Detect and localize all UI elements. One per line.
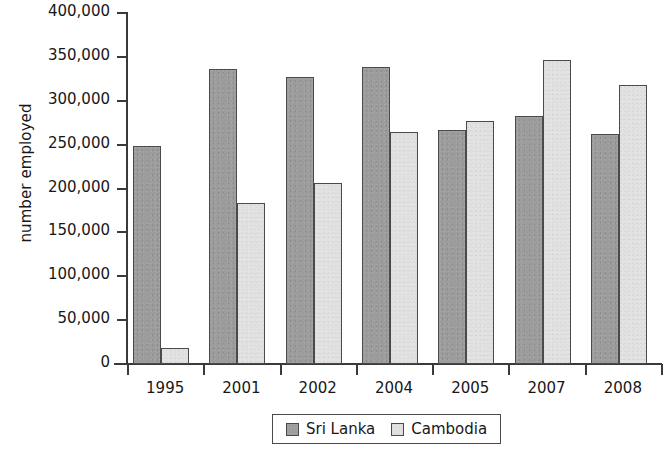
bar-sri-lanka <box>438 130 466 364</box>
x-axis-tick-mark <box>203 364 205 375</box>
y-axis-tick-label: 250,000 <box>48 134 110 152</box>
bar-sri-lanka <box>362 67 390 364</box>
y-axis-tick-mark <box>117 231 127 233</box>
y-axis-tick-mark <box>117 100 127 102</box>
bar-sri-lanka <box>209 69 237 364</box>
bar-cambodia <box>237 203 265 364</box>
legend-label-cambodia: Cambodia <box>411 420 487 438</box>
y-axis-tick-mark <box>117 319 127 321</box>
bar-chart: number employed 050,000100,000150,000200… <box>0 0 664 453</box>
bar-sri-lanka <box>286 77 314 364</box>
x-axis-tick-mark <box>280 364 282 375</box>
y-axis-tick-label: 100,000 <box>48 265 110 283</box>
x-axis-tick-label: 2005 <box>432 379 508 397</box>
bar-cambodia <box>161 348 189 364</box>
bar-group <box>133 13 189 364</box>
bar-cambodia <box>466 121 494 364</box>
x-axis-tick-label: 2002 <box>280 379 356 397</box>
plot-area <box>127 13 661 364</box>
x-axis-tick-mark <box>356 364 358 375</box>
x-axis-tick-mark <box>585 364 587 375</box>
bar-cambodia <box>390 132 418 364</box>
y-axis-tick-mark <box>117 188 127 190</box>
x-axis-tick-label: 2004 <box>356 379 432 397</box>
bar-group <box>591 13 647 364</box>
bar-group <box>286 13 342 364</box>
y-axis-title: number employed <box>17 63 35 283</box>
bar-group <box>209 13 265 364</box>
bar-sri-lanka <box>515 116 543 364</box>
bar-group <box>515 13 571 364</box>
legend-item-sri-lanka: Sri Lanka <box>286 420 375 438</box>
bar-group <box>362 13 418 364</box>
light-gray-swatch <box>391 423 404 436</box>
bar-sri-lanka <box>591 134 619 364</box>
legend-label-sri-lanka: Sri Lanka <box>306 420 375 438</box>
y-axis-tick-mark <box>117 275 127 277</box>
y-axis-tick-label: 400,000 <box>48 2 110 20</box>
x-axis-tick-mark <box>508 364 510 375</box>
x-axis-tick-label: 2001 <box>203 379 279 397</box>
y-axis-tick-label: 350,000 <box>48 46 110 64</box>
y-axis-tick-mark <box>117 12 127 14</box>
y-axis-tick-label: 0 <box>100 353 110 371</box>
y-axis-tick-mark <box>117 363 127 365</box>
legend-item-cambodia: Cambodia <box>391 420 487 438</box>
y-axis-tick-mark <box>117 56 127 58</box>
chart-legend: Sri Lanka Cambodia <box>272 414 501 444</box>
y-axis-tick-label: 200,000 <box>48 178 110 196</box>
bar-cambodia <box>619 85 647 364</box>
x-axis-tick-label: 2008 <box>585 379 661 397</box>
y-axis-tick-label: 300,000 <box>48 90 110 108</box>
x-axis-tick-mark <box>432 364 434 375</box>
y-axis-tick-label: 50,000 <box>58 309 111 327</box>
x-axis-tick-label: 1995 <box>127 379 203 397</box>
y-axis-tick-label: 150,000 <box>48 221 110 239</box>
y-axis-tick-mark <box>117 144 127 146</box>
x-axis-tick-mark <box>127 364 129 375</box>
bar-cambodia <box>314 183 342 364</box>
dark-gray-swatch <box>286 423 299 436</box>
x-axis-tick-label: 2007 <box>508 379 584 397</box>
bar-group <box>438 13 494 364</box>
bar-sri-lanka <box>133 146 161 364</box>
x-axis-tick-mark <box>661 364 663 375</box>
bar-cambodia <box>543 60 571 364</box>
